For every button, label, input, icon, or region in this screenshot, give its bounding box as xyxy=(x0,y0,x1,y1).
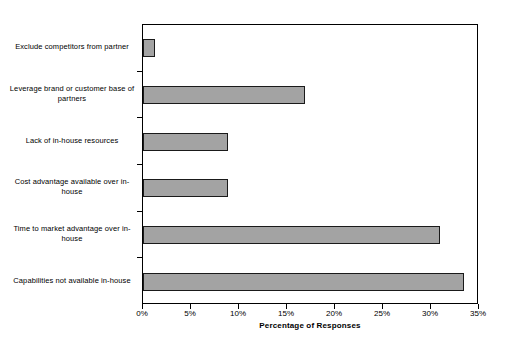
x-axis-tick-label: 35% xyxy=(458,309,498,318)
bar xyxy=(143,273,464,291)
category-label: Exclude competitors from partner xyxy=(8,42,136,52)
y-axis-tick xyxy=(137,211,142,212)
bar xyxy=(143,39,155,57)
x-axis-tick-label: 0% xyxy=(122,309,162,318)
category-label: Leverage brand or customer base of partn… xyxy=(8,84,136,104)
x-axis-tick-label: 20% xyxy=(314,309,354,318)
bar xyxy=(143,133,228,151)
x-axis-tick-label: 5% xyxy=(170,309,210,318)
category-label: Time to market advantage over in-house xyxy=(8,224,136,244)
bar xyxy=(143,226,440,244)
x-axis-tick-label: 15% xyxy=(266,309,306,318)
y-axis-tick xyxy=(137,257,142,258)
bar xyxy=(143,179,228,197)
plot-area xyxy=(142,24,478,304)
category-axis-labels: Exclude competitors from partnerLeverage… xyxy=(8,24,136,304)
y-axis-tick xyxy=(137,117,142,118)
category-label: Cost advantage available over in-house xyxy=(8,177,136,197)
x-axis-tick-label: 30% xyxy=(410,309,450,318)
x-axis-tick-label: 25% xyxy=(362,309,402,318)
y-axis-tick xyxy=(137,164,142,165)
x-axis-title: Percentage of Responses xyxy=(142,321,478,330)
category-label: Capabilities not available in-house xyxy=(8,276,136,286)
y-axis-tick xyxy=(137,71,142,72)
bar xyxy=(143,86,305,104)
bar-chart: Exclude competitors from partnerLeverage… xyxy=(0,0,507,340)
category-label: Lack of in-house resources xyxy=(8,136,136,146)
x-axis-tick-label: 10% xyxy=(218,309,258,318)
